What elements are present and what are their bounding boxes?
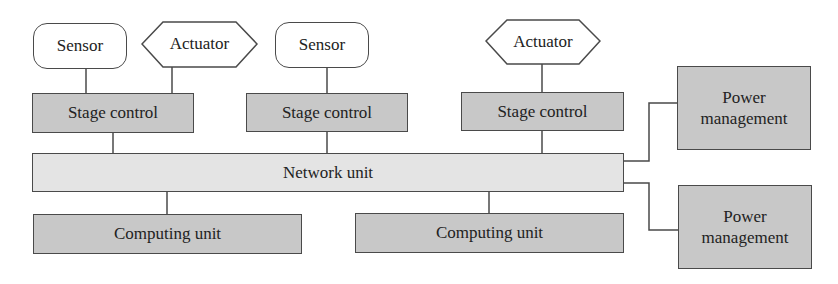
power-management-2: Power management bbox=[678, 185, 812, 269]
stage-control-3: Stage control bbox=[461, 92, 624, 131]
network-unit-label: Network unit bbox=[283, 162, 373, 183]
computing-unit-2: Computing unit bbox=[355, 213, 624, 253]
actuator-node-2: Actuator bbox=[485, 19, 601, 64]
stage-control-label: Stage control bbox=[68, 102, 158, 123]
network-unit: Network unit bbox=[32, 153, 624, 192]
power-management-line2: management bbox=[702, 227, 789, 248]
computing-unit-label: Computing unit bbox=[114, 223, 221, 244]
power-management-1: Power management bbox=[677, 66, 811, 150]
computing-unit-label: Computing unit bbox=[436, 222, 543, 243]
power-management-line1: Power bbox=[722, 87, 765, 108]
actuator-label: Actuator bbox=[513, 32, 572, 52]
computing-unit-1: Computing unit bbox=[33, 214, 302, 254]
actuator-label: Actuator bbox=[170, 34, 229, 54]
stage-control-label: Stage control bbox=[497, 101, 587, 122]
sensor-node-1: Sensor bbox=[33, 23, 127, 69]
actuator-node-1: Actuator bbox=[141, 21, 258, 67]
sensor-label: Sensor bbox=[57, 35, 103, 56]
stage-control-label: Stage control bbox=[282, 102, 372, 123]
sensor-node-2: Sensor bbox=[275, 22, 369, 68]
stage-control-1: Stage control bbox=[32, 93, 194, 133]
sensor-label: Sensor bbox=[299, 34, 345, 55]
power-management-line1: Power bbox=[723, 206, 766, 227]
power-management-line2: management bbox=[701, 108, 788, 129]
stage-control-2: Stage control bbox=[246, 93, 408, 132]
